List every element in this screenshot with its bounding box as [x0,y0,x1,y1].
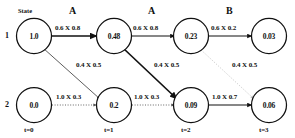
state-row-label-2: 2 [5,101,9,109]
node-value-s1t1: 0.48 [97,33,131,41]
edge-label-s1t0-s2t1: 0.4 X 0.5 [76,62,101,69]
state-row-label-1: 1 [5,32,9,40]
time-label-t3: t=3 [259,127,268,134]
node-value-s1t3: 0.03 [252,33,286,41]
edge-s1t1-s2t2 [123,48,177,99]
node-value-s2t3: 0.06 [252,102,286,110]
time-label-t2: t=2 [181,127,190,134]
edge-label-s1t0-s1t1: 0.6 X 0.8 [55,25,80,32]
node-value-s2t1: 0.2 [97,102,131,110]
time-label-t0: t=0 [24,127,33,134]
node-value-s1t0: 1.0 [17,33,51,41]
action-label-1: A [148,6,155,16]
node-value-s2t2: 0.09 [174,102,208,110]
node-value-s2t0: 0.0 [17,102,51,110]
edge-label-s2t1-s2t2: 1.0 X 0.3 [134,94,159,101]
edge-s1t2-s2t3 [199,48,254,99]
edge-s1t0-s2t1 [43,48,100,99]
state-axis-label: State [18,8,32,15]
edge-label-s1t1-s1t2: 0.6 X 0.8 [133,25,158,32]
trellis-graph-canvas [0,0,295,138]
edge-label-s1t2-s2t3: 0.4 X 0.5 [232,62,257,69]
edge-label-s2t0-s2t1: 1.0 X 0.3 [56,94,81,101]
action-label-0: A [69,6,76,16]
edge-label-s1t1-s2t2: 0.4 X 0.5 [154,62,179,69]
node-value-s1t2: 0.23 [174,33,208,41]
edge-label-s2t2-s2t3: 1.0 X 0.7 [212,94,237,101]
action-label-2: B [226,6,233,16]
time-label-t1: t=1 [104,127,113,134]
trellis-diagram: State 1 2 A A B 0.6 X 0.8 0.6 X 0.8 0.6 … [0,0,295,138]
edge-label-s1t2-s1t3: 0.6 X 0.2 [211,25,236,32]
